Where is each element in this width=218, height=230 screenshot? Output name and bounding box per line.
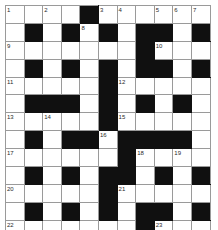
crossword-cell[interactable]: [24, 220, 43, 230]
crossword-cell[interactable]: 22: [6, 220, 25, 230]
crossword-cell[interactable]: [43, 41, 62, 59]
crossword-cell[interactable]: [43, 202, 62, 220]
crossword-cell[interactable]: [24, 41, 43, 59]
crossword-cell[interactable]: 19: [173, 149, 192, 167]
crossword-cell[interactable]: [61, 220, 80, 230]
crossword-cell[interactable]: [117, 202, 136, 220]
crossword-cell[interactable]: 17: [6, 149, 25, 167]
crossword-cell[interactable]: [117, 41, 136, 59]
crossword-cell[interactable]: [173, 113, 192, 131]
crossword-cell[interactable]: [191, 77, 210, 95]
crossword-cell[interactable]: [117, 220, 136, 230]
crossword-cell[interactable]: [154, 184, 173, 202]
crossword-cell[interactable]: [24, 113, 43, 131]
crossword-cell[interactable]: 20: [6, 184, 25, 202]
crossword-cell[interactable]: [80, 41, 99, 59]
crossword-cell[interactable]: [173, 220, 192, 230]
crossword-cell[interactable]: 8: [80, 23, 99, 41]
crossword-cell[interactable]: [43, 59, 62, 77]
crossword-cell[interactable]: [61, 6, 80, 24]
crossword-cell[interactable]: 14: [43, 113, 62, 131]
crossword-cell[interactable]: [117, 23, 136, 41]
crossword-cell[interactable]: [98, 41, 117, 59]
crossword-cell[interactable]: [80, 149, 99, 167]
crossword-cell[interactable]: [6, 167, 25, 185]
crossword-cell[interactable]: [154, 95, 173, 113]
crossword-cell[interactable]: [24, 6, 43, 24]
crossword-cell[interactable]: [24, 77, 43, 95]
crossword-cell[interactable]: 5: [154, 6, 173, 24]
crossword-cell[interactable]: [80, 77, 99, 95]
crossword-cell[interactable]: [191, 113, 210, 131]
crossword-cell[interactable]: [191, 131, 210, 149]
crossword-cell[interactable]: [80, 113, 99, 131]
crossword-cell[interactable]: [173, 77, 192, 95]
crossword-cell[interactable]: [191, 149, 210, 167]
crossword-cell[interactable]: 4: [117, 6, 136, 24]
crossword-cell[interactable]: 9: [6, 41, 25, 59]
crossword-cell[interactable]: 1: [6, 6, 25, 24]
crossword-cell[interactable]: [173, 184, 192, 202]
crossword-cell[interactable]: [117, 59, 136, 77]
crossword-cell[interactable]: [43, 23, 62, 41]
crossword-cell[interactable]: [136, 113, 155, 131]
crossword-cell[interactable]: 12: [117, 77, 136, 95]
crossword-cell[interactable]: [173, 167, 192, 185]
crossword-cell[interactable]: 18: [136, 149, 155, 167]
crossword-cell[interactable]: [80, 202, 99, 220]
crossword-cell[interactable]: 3: [98, 6, 117, 24]
crossword-cell[interactable]: [136, 184, 155, 202]
crossword-cell[interactable]: [136, 167, 155, 185]
crossword-cell[interactable]: [154, 113, 173, 131]
crossword-cell[interactable]: [80, 95, 99, 113]
crossword-cell[interactable]: [43, 149, 62, 167]
crossword-cell[interactable]: [80, 184, 99, 202]
crossword-cell[interactable]: 6: [173, 6, 192, 24]
crossword-cell[interactable]: 21: [117, 184, 136, 202]
crossword-cell[interactable]: 2: [43, 6, 62, 24]
crossword-cell[interactable]: 10: [154, 41, 173, 59]
crossword-cell[interactable]: [43, 131, 62, 149]
crossword-cell[interactable]: [43, 184, 62, 202]
crossword-cell[interactable]: 11: [6, 77, 25, 95]
crossword-cell[interactable]: [61, 149, 80, 167]
crossword-cell[interactable]: [154, 149, 173, 167]
crossword-cell[interactable]: [136, 6, 155, 24]
crossword-cell[interactable]: [98, 149, 117, 167]
crossword-cell[interactable]: [61, 113, 80, 131]
crossword-cell[interactable]: [24, 184, 43, 202]
crossword-cell[interactable]: [173, 59, 192, 77]
crossword-cell[interactable]: [173, 23, 192, 41]
crossword-cell[interactable]: 15: [117, 113, 136, 131]
crossword-grid[interactable]: 1234567891011121314151617181920212223: [5, 5, 211, 230]
crossword-cell[interactable]: [154, 77, 173, 95]
crossword-cell[interactable]: [191, 184, 210, 202]
crossword-cell[interactable]: [61, 184, 80, 202]
crossword-cell[interactable]: [61, 77, 80, 95]
crossword-cell[interactable]: 23: [154, 220, 173, 230]
crossword-cell[interactable]: [80, 59, 99, 77]
crossword-cell[interactable]: [6, 59, 25, 77]
crossword-cell[interactable]: [136, 77, 155, 95]
crossword-cell[interactable]: [43, 220, 62, 230]
crossword-cell[interactable]: [98, 220, 117, 230]
crossword-cell[interactable]: [191, 220, 210, 230]
crossword-cell[interactable]: 16: [98, 131, 117, 149]
crossword-cell[interactable]: [80, 220, 99, 230]
crossword-cell[interactable]: 7: [191, 6, 210, 24]
crossword-cell[interactable]: [173, 41, 192, 59]
crossword-cell[interactable]: [191, 41, 210, 59]
crossword-cell[interactable]: [24, 149, 43, 167]
crossword-cell[interactable]: [6, 23, 25, 41]
crossword-cell[interactable]: [6, 202, 25, 220]
crossword-cell[interactable]: [6, 95, 25, 113]
crossword-cell[interactable]: [191, 95, 210, 113]
crossword-cell[interactable]: [43, 77, 62, 95]
crossword-cell[interactable]: [43, 167, 62, 185]
crossword-cell[interactable]: [173, 202, 192, 220]
crossword-cell[interactable]: [117, 95, 136, 113]
crossword-cell[interactable]: 13: [6, 113, 25, 131]
crossword-cell[interactable]: [80, 167, 99, 185]
crossword-cell[interactable]: [61, 41, 80, 59]
crossword-cell[interactable]: [6, 131, 25, 149]
